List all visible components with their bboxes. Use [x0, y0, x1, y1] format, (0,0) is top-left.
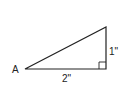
- right-triangle-diagram: A 2" 1": [0, 0, 125, 90]
- right-angle-marker: [99, 62, 106, 69]
- vertex-a-label: A: [12, 64, 19, 75]
- triangle-shape: [25, 27, 106, 69]
- base-length-label: 2": [62, 73, 72, 84]
- height-length-label: 1": [109, 46, 119, 57]
